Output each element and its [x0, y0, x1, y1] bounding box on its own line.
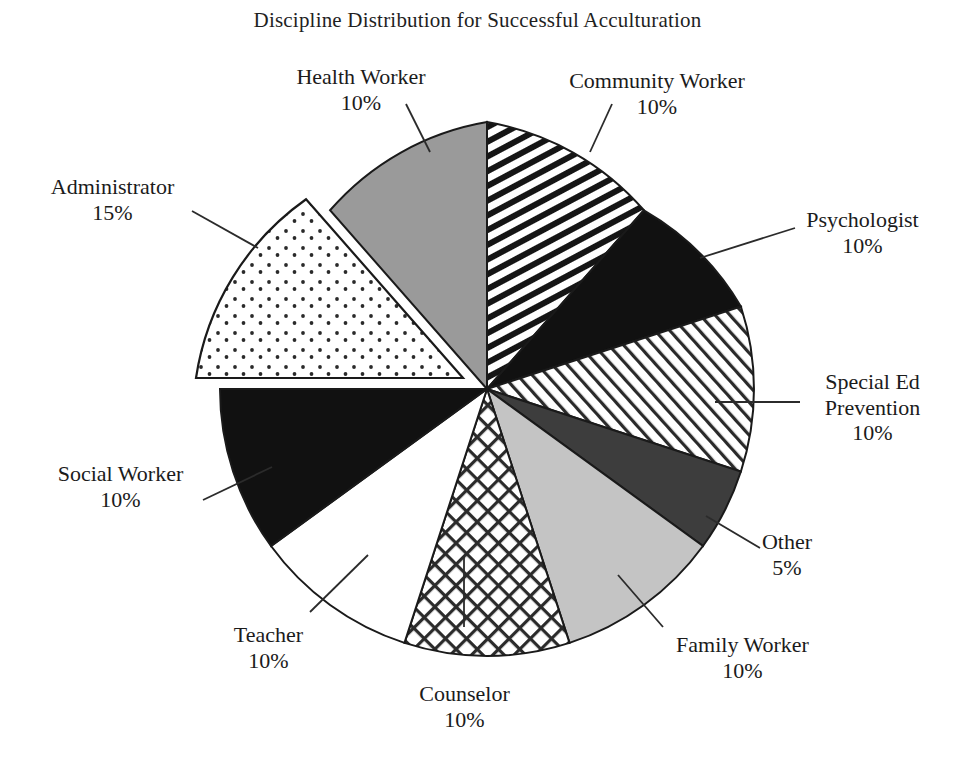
- slice-label-administrator-value: 15%: [30, 200, 195, 226]
- slice-label-family-worker-value: 10%: [640, 658, 845, 684]
- slice-label-health-worker-value: 10%: [266, 90, 456, 116]
- slice-label-counselor: Counselor 10%: [372, 681, 557, 732]
- slice-label-community-worker-name: Community Worker: [532, 68, 782, 94]
- slice-label-special-ed-prevention: Special Ed Prevention 10%: [795, 369, 950, 446]
- slice-label-social-worker: Social Worker 10%: [33, 461, 208, 512]
- slice-label-administrator-name: Administrator: [30, 174, 195, 200]
- slice-label-teacher: Teacher 10%: [186, 622, 351, 673]
- slice-label-counselor-value: 10%: [372, 707, 557, 733]
- slice-label-psychologist-name: Psychologist: [775, 207, 950, 233]
- slice-label-administrator: Administrator 15%: [30, 174, 195, 225]
- slice-label-psychologist-value: 10%: [775, 233, 950, 259]
- slice-label-special-ed-prevention-value: 10%: [795, 420, 950, 446]
- slice-label-other-value: 5%: [722, 555, 852, 581]
- slice-label-other: Other 5%: [722, 529, 852, 580]
- slice-label-teacher-name: Teacher: [186, 622, 351, 648]
- slice-label-psychologist: Psychologist 10%: [775, 207, 950, 258]
- slice-label-health-worker: Health Worker 10%: [266, 64, 456, 115]
- slice-label-social-worker-name: Social Worker: [33, 461, 208, 487]
- slice-label-social-worker-value: 10%: [33, 487, 208, 513]
- slice-label-health-worker-name: Health Worker: [266, 64, 456, 90]
- pie-chart-figure: Discipline Distribution for Successful A…: [0, 0, 955, 762]
- slice-label-community-worker: Community Worker 10%: [532, 68, 782, 119]
- slice-label-teacher-value: 10%: [186, 648, 351, 674]
- pie-slices: [196, 122, 754, 656]
- slice-label-special-ed-prevention-name: Special Ed: [795, 369, 950, 395]
- slice-label-other-name: Other: [722, 529, 852, 555]
- slice-label-community-worker-value: 10%: [532, 94, 782, 120]
- slice-label-special-ed-prevention-name2: Prevention: [795, 395, 950, 421]
- slice-label-counselor-name: Counselor: [372, 681, 557, 707]
- slice-label-family-worker-name: Family Worker: [640, 632, 845, 658]
- slice-label-family-worker: Family Worker 10%: [640, 632, 845, 683]
- leader-line-administrator: [192, 211, 258, 248]
